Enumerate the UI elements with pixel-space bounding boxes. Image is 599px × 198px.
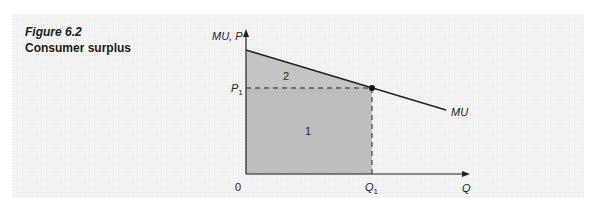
surplus-region-label: 2 xyxy=(283,70,289,82)
price-label: P1 xyxy=(231,82,243,97)
price-label-sub: 1 xyxy=(238,88,243,97)
x-axis-label: Q xyxy=(462,182,471,194)
y-axis-label: MU, P xyxy=(212,30,243,42)
origin-label: 0 xyxy=(235,181,241,193)
quantity-label-sub: 1 xyxy=(374,187,379,196)
equilibrium-point xyxy=(369,85,375,91)
curve-label: MU xyxy=(451,106,468,118)
consumer-surplus-diagram: MU, P Q 0 MU P1 Q1 2 1 xyxy=(0,0,599,198)
expenditure-region-label: 1 xyxy=(305,125,311,137)
y-axis-arrow-icon xyxy=(243,29,249,37)
quantity-label: Q1 xyxy=(365,181,379,196)
x-axis-arrow-icon xyxy=(462,171,470,177)
